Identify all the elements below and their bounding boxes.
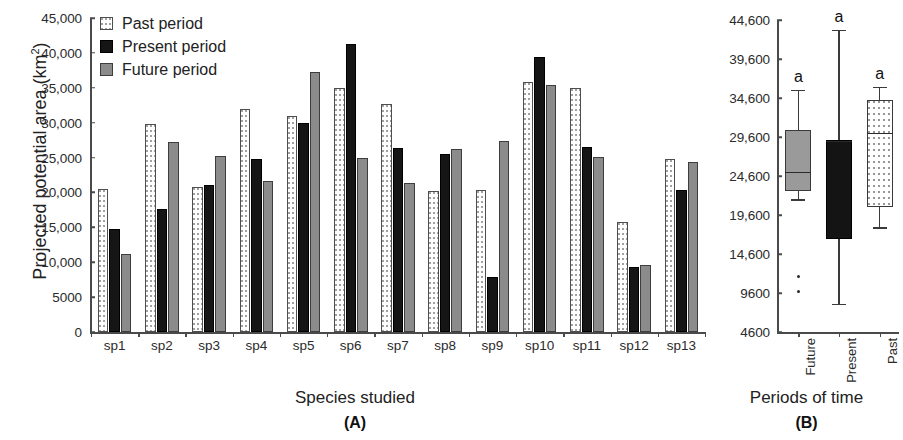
- panel-a-x-tick-label: sp6: [327, 338, 374, 353]
- panel-a-x-axis-line: [90, 332, 706, 334]
- panel-a-bar-past: [617, 222, 628, 332]
- panel-b-box-plot: 4600960014,60019,60024,60029,60034,60039…: [710, 0, 903, 440]
- panel-a-x-tick-mark: [469, 332, 470, 337]
- panel-a-bar-past: [287, 116, 298, 332]
- panel-a-bar-present: [346, 44, 357, 332]
- panel-a-bar-past: [570, 88, 581, 332]
- panel-a-bar-group: [658, 18, 705, 332]
- panel-a-bar-present: [534, 57, 545, 332]
- panel-a-bar-future: [546, 85, 557, 332]
- panel-a-bar-group: [422, 18, 469, 332]
- panel-a-bar-present: [204, 185, 215, 332]
- panel-b-box-past: [867, 100, 893, 208]
- panel-a-x-tick-mark: [138, 332, 139, 337]
- panel-b-y-tick-label: 34,600: [710, 91, 770, 106]
- panel-a-bar-present: [393, 148, 404, 332]
- panel-b-x-tick-label: Present: [844, 338, 859, 383]
- panel-a-x-tick-mark: [563, 332, 564, 337]
- panel-a-x-tick-label: sp9: [469, 338, 516, 353]
- panel-a-y-tick-label: 45,000: [0, 11, 82, 26]
- panel-a-bar-group: [280, 18, 327, 332]
- panel-a-y-tick-label: 15,000: [0, 220, 82, 235]
- panel-a-x-tick-label: sp5: [280, 338, 327, 353]
- panel-a-x-tick-mark: [516, 332, 517, 337]
- panel-a-x-tick-mark: [422, 332, 423, 337]
- panel-a-bar-future: [121, 254, 132, 332]
- panel-a-bar-present: [440, 154, 451, 332]
- panel-a-bar-future: [310, 72, 321, 332]
- panel-a-bar-group: [374, 18, 421, 332]
- panel-b-significance-letter: a: [875, 65, 884, 83]
- panel-a-x-tick-label: sp10: [516, 338, 563, 353]
- panel-b-y-tick-label: 29,600: [710, 130, 770, 145]
- panel-b-whisker-lower: [798, 191, 799, 200]
- legend-item-past: Past period: [100, 12, 226, 35]
- panel-a-x-tick-mark: [327, 332, 328, 337]
- legend-item-present: Present period: [100, 35, 226, 58]
- panel-a-x-tick-label: sp2: [138, 338, 185, 353]
- panel-b-median-line: [785, 172, 811, 173]
- panel-a-bar-future: [688, 162, 699, 332]
- panel-a-bar-present: [676, 190, 687, 332]
- panel-b-whisker-lower: [838, 239, 839, 304]
- panel-b-whisker-cap-lower: [873, 227, 887, 228]
- panel-a-bar-past: [665, 159, 676, 332]
- panel-b-median-line: [826, 141, 852, 142]
- panel-b-y-tick-label: 44,600: [710, 13, 770, 28]
- panel-b-whisker-upper: [838, 30, 839, 140]
- panel-a-y-tick-label: 20,000: [0, 185, 82, 200]
- panel-a-bar-group: [516, 18, 563, 332]
- panel-a-bar-past: [523, 82, 534, 332]
- panel-a-bar-present: [487, 277, 498, 332]
- panel-a-y-tick-label: 35,000: [0, 80, 82, 95]
- legend-swatch-past-icon: [100, 17, 113, 30]
- panel-b-tag: (B): [710, 414, 903, 432]
- panel-a-bar-present: [251, 159, 262, 332]
- panel-a-x-tick-label: sp8: [422, 338, 469, 353]
- panel-a-y-tick-label: 30,000: [0, 115, 82, 130]
- panel-b-whisker-upper: [879, 87, 880, 99]
- panel-b-x-tick-label: Future: [803, 338, 818, 376]
- panel-a-bar-present: [298, 123, 309, 332]
- panel-a-bar-past: [192, 187, 203, 332]
- panel-b-outlier-point: [797, 290, 800, 293]
- panel-a-bar-future: [357, 158, 368, 332]
- panel-b-y-tick-label: 4600: [710, 325, 770, 340]
- panel-b-y-tick-label: 39,600: [710, 52, 770, 67]
- panel-a-x-tick-mark: [705, 332, 706, 337]
- panel-a-bar-past: [334, 88, 345, 332]
- panel-b-x-axis-title: Periods of time: [710, 388, 903, 408]
- panel-a-x-tick-label: sp4: [233, 338, 280, 353]
- panel-a-x-tick-mark: [185, 332, 186, 337]
- panel-a-x-tick-mark: [280, 332, 281, 337]
- panel-a-x-tick-label: sp3: [185, 338, 232, 353]
- panel-a-bar-group: [469, 18, 516, 332]
- panel-b-box-future: [785, 130, 811, 191]
- panel-a-bar-group: [327, 18, 374, 332]
- panel-a-x-tick-mark: [374, 332, 375, 337]
- panel-a-bar-future: [215, 156, 226, 332]
- panel-a-x-tick-label: sp12: [611, 338, 658, 353]
- panel-b-significance-letter: a: [794, 68, 803, 86]
- panel-a-bar-future: [593, 157, 604, 332]
- panel-a-y-tick-label: 10,000: [0, 255, 82, 270]
- panel-b-whisker-cap-lower: [832, 304, 846, 305]
- panel-a-bar-present: [582, 147, 593, 332]
- panel-a-bar-future: [168, 142, 179, 332]
- panel-a-x-tick-mark: [611, 332, 612, 337]
- panel-a-bar-past: [145, 124, 156, 332]
- panel-a-bar-future: [499, 141, 510, 332]
- panel-a-bar-group: [233, 18, 280, 332]
- panel-a-x-tick-label: sp13: [658, 338, 705, 353]
- panel-b-whisker-cap-lower: [791, 199, 805, 200]
- panel-b-boxes: aaa: [778, 20, 900, 333]
- panel-a-bar-future: [404, 183, 415, 332]
- panel-a-legend: Past periodPresent periodFuture period: [100, 12, 226, 81]
- panel-b-y-tick-label: 14,600: [710, 247, 770, 262]
- panel-b-y-tick-label: 9600: [710, 286, 770, 301]
- panel-a-bar-present: [109, 229, 120, 332]
- legend-swatch-future-icon: [100, 63, 113, 76]
- panel-b-outlier-point: [797, 275, 800, 278]
- panel-a-bar-past: [98, 189, 109, 332]
- figure-root: Projected potential area (km2) 0500010,0…: [0, 0, 903, 440]
